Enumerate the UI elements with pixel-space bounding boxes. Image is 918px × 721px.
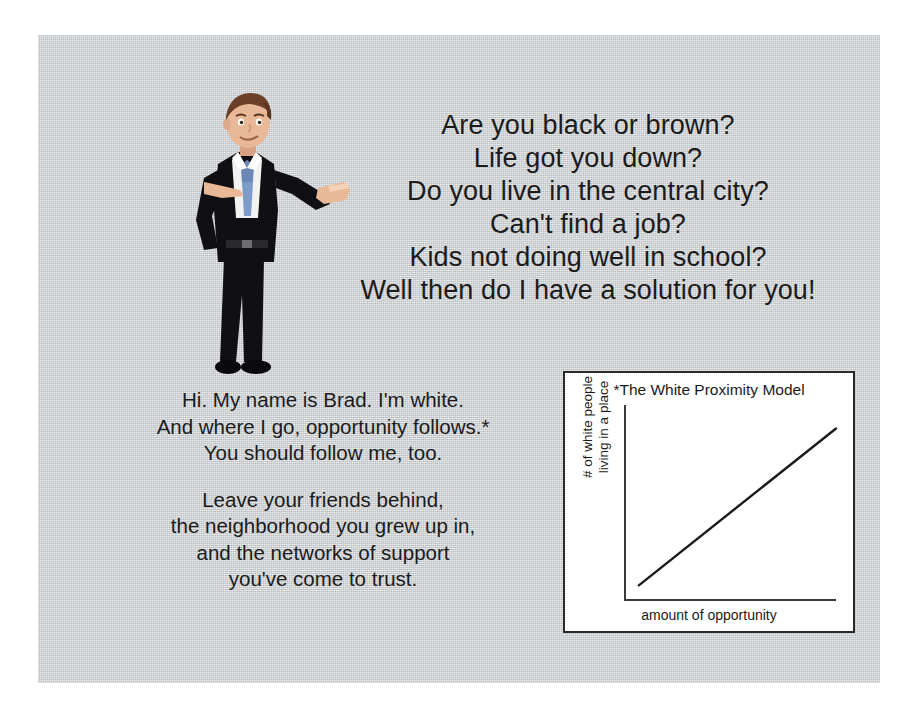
page-canvas: Are you black or brown? Life got you dow…: [0, 0, 918, 721]
chart-plot-area: [624, 405, 836, 601]
businessman-svg: [178, 90, 353, 385]
headline-line-5: Kids not doing well in school?: [338, 241, 838, 274]
body-p2-line-2: the neighborhood you grew up in,: [123, 513, 523, 540]
body-paragraph-2: Leave your friends behind, the neighborh…: [123, 487, 523, 593]
body-p1-line-3: You should follow me, too.: [123, 440, 523, 467]
body-p2-line-1: Leave your friends behind,: [123, 487, 523, 514]
cartoon-businessman-illustration: [178, 90, 353, 385]
headline-line-1: Are you black or brown?: [338, 109, 838, 142]
body-copy-block: Hi. My name is Brad. I'm white. And wher…: [123, 387, 523, 593]
headline-line-3: Do you live in the central city?: [338, 175, 838, 208]
white-proximity-model-chart: *The White Proximity Model # of white pe…: [563, 371, 855, 633]
x-axis-label: amount of opportunity: [565, 607, 853, 623]
body-p2-line-3: and the networks of support: [123, 540, 523, 567]
headline-line-2: Life got you down?: [338, 142, 838, 175]
headline-line-4: Can't find a job?: [338, 208, 838, 241]
body-paragraph-1: Hi. My name is Brad. I'm white. And wher…: [123, 387, 523, 467]
headline-block: Are you black or brown? Life got you dow…: [338, 109, 838, 307]
body-p1-line-2: And where I go, opportunity follows.*: [123, 414, 523, 441]
body-p2-line-4: you've come to trust.: [123, 566, 523, 593]
y-axis-label-line-1: # of white people: [580, 352, 596, 502]
chart-trend-line: [624, 405, 836, 601]
body-p1-line-1: Hi. My name is Brad. I'm white.: [123, 387, 523, 414]
slide-surface: Are you black or brown? Life got you dow…: [38, 35, 880, 683]
y-axis-label-line-2: living in a place: [596, 352, 612, 502]
headline-line-6: Well then do I have a solution for you!: [338, 274, 838, 307]
y-axis-label: # of white people living in a place: [580, 352, 612, 502]
